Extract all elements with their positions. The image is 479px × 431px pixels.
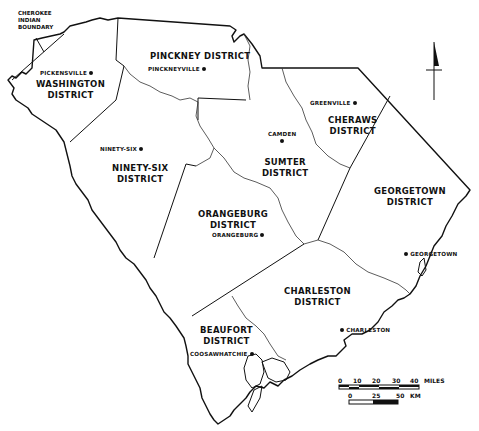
- scale-bar-km-graphic: [348, 399, 400, 407]
- town-pinckneyville: PINCKNEYVILLE: [148, 66, 206, 73]
- scale-km-unit: KM: [410, 392, 421, 399]
- scale-mile-unit: MILES: [424, 377, 444, 384]
- scale-bar-miles-graphic: [338, 384, 422, 392]
- town-coosawhatchie: COOSAWHATCHIE: [190, 351, 254, 358]
- town-camden: CAMDEN: [268, 131, 296, 145]
- scale-mile-tick: 10: [353, 377, 361, 384]
- town-name: NINETY-SIX: [100, 146, 137, 152]
- town-dot-icon: [404, 252, 408, 256]
- boundary-washington-ninetysix: [70, 66, 124, 142]
- town-dot-icon: [353, 101, 357, 105]
- town-name: CAMDEN: [268, 131, 296, 137]
- scale-mile-tick: 0: [338, 377, 342, 384]
- town-name: ORANGEBURG: [212, 232, 258, 238]
- scale-km-tick: 25: [372, 392, 380, 399]
- district-label-charleston: CHARLESTON DISTRICT: [284, 286, 351, 308]
- annotation-leader: [36, 38, 44, 52]
- town-dot-icon: [202, 67, 206, 71]
- scale-km-tick: 50: [396, 392, 404, 399]
- town-name: PINCKNEYVILLE: [148, 66, 200, 72]
- town-dot-icon: [139, 147, 143, 151]
- town-dot-icon: [260, 233, 264, 237]
- town-dot-icon: [89, 71, 93, 75]
- boundary-pinckney-cheraws: [244, 34, 250, 100]
- town-name: CHARLESTON: [346, 327, 390, 333]
- town-dot-icon: [280, 139, 284, 143]
- district-label-pinckney: PINCKNEY DISTRICT: [150, 51, 250, 62]
- north-arrow-icon: [424, 40, 444, 104]
- scale-mile-tick: 40: [410, 377, 418, 384]
- district-label-beaufort: BEAUFORT DISTRICT: [200, 325, 253, 347]
- town-name: GEORGETOWN: [410, 251, 457, 257]
- district-label-washington: WASHINGTON DISTRICT: [36, 79, 105, 101]
- town-orangeburg: ORANGEBURG: [212, 232, 264, 239]
- town-georgetown: GEORGETOWN: [404, 251, 457, 258]
- district-label-ninety-six: NINETY-SIX DISTRICT: [112, 163, 168, 185]
- town-charleston: CHARLESTON: [340, 327, 390, 334]
- town-greenville: GREENVILLE: [310, 100, 357, 107]
- town-pickensville: PICKENSVILLE: [40, 70, 93, 77]
- town-name: PICKENSVILLE: [40, 70, 87, 76]
- district-label-sumter: SUMTER DISTRICT: [262, 157, 308, 179]
- coast-island: [244, 354, 264, 388]
- scale-mile-tick: 20: [372, 377, 380, 384]
- town-ninety-six: NINETY-SIX: [100, 146, 143, 153]
- boundary-ninetysix-sumter: [196, 102, 214, 166]
- district-label-georgetown: GEORGETOWN DISTRICT: [374, 186, 446, 208]
- cherokee-boundary-annotation: CHEROKEE INDIAN BOUNDARY: [18, 10, 53, 31]
- district-label-orangeburg: ORANGEBURG DISTRICT: [198, 209, 268, 231]
- boundary-washington-pinckney: [116, 18, 124, 66]
- town-dot-icon: [250, 352, 254, 356]
- boundary-pinckney-sumter: [198, 98, 246, 120]
- town-name: GREENVILLE: [310, 100, 351, 106]
- coast-island: [248, 386, 262, 412]
- district-label-cheraws: CHERAWS DISTRICT: [328, 115, 378, 137]
- town-dot-icon: [340, 328, 344, 332]
- scale-km-tick: 0: [348, 392, 352, 399]
- scale-mile-tick: 30: [392, 377, 400, 384]
- town-name: COOSAWHATCHIE: [190, 351, 248, 357]
- boundary-sumter-georgetown: [318, 168, 350, 240]
